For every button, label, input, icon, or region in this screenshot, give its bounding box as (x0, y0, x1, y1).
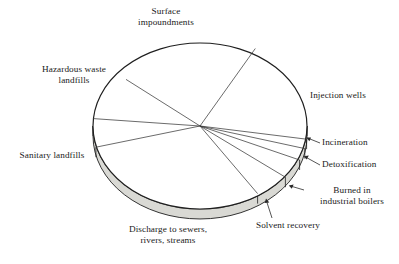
slice-label-burned-in-industrial-boilers: Burned in industrial boilers (306, 185, 398, 207)
slice-label-discharge-to-sewers: Discharge to sewers, rivers, streams (110, 224, 226, 246)
leader-solvent-recovery (267, 201, 273, 218)
slice-label-sanitary-landfills: Sanitary landfills (6, 150, 98, 161)
leader-detoxification (306, 157, 321, 165)
slice-label-surface-impoundments: Surface impoundments (118, 6, 214, 28)
slice-label-solvent-recovery: Solvent recovery (240, 220, 336, 231)
slice-label-injection-wells: Injection wells (310, 90, 396, 101)
slice-label-hazardous-waste-landfills: Hazardous waste landfills (22, 64, 126, 86)
pie-chart-figure: Surface impoundments Hazardous waste lan… (0, 0, 399, 264)
slice-label-detoxification: Detoxification (322, 159, 398, 170)
slice-label-incineration: Incineration (322, 137, 394, 148)
